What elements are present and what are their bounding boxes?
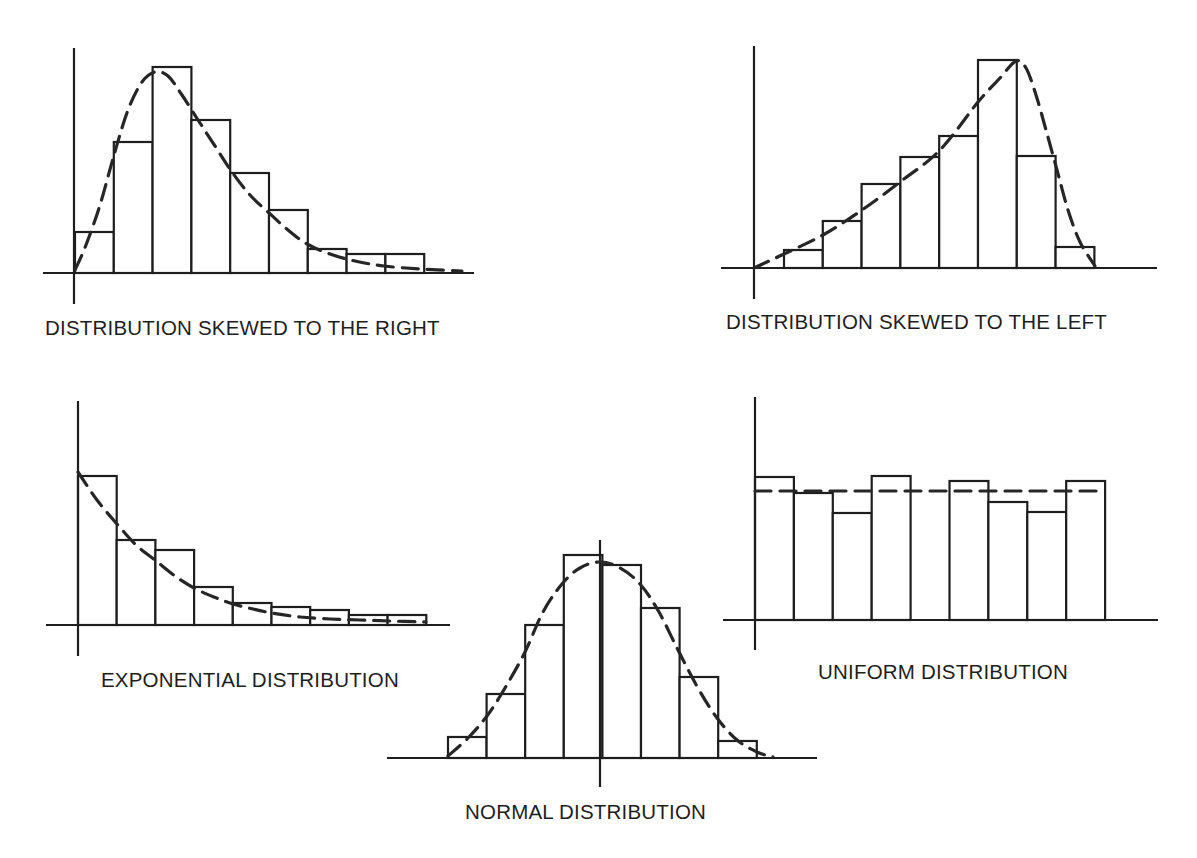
chart-exponential (46, 401, 450, 656)
histogram-bar (117, 540, 156, 625)
histogram-bar (755, 477, 794, 620)
histogram-bar (680, 677, 719, 758)
histogram-bar (833, 513, 872, 620)
chart-uniform (723, 397, 1158, 650)
histogram-bar (1066, 481, 1105, 620)
histogram-bar (862, 184, 901, 268)
histogram-bar (978, 60, 1017, 268)
histogram-bar (230, 173, 269, 273)
label-normal: NORMAL DISTRIBUTION (465, 802, 706, 823)
histogram-bar (602, 565, 641, 758)
histogram-bar (308, 249, 347, 273)
chart-skewed-right (43, 48, 474, 304)
chart-skewed-left (721, 46, 1157, 299)
histogram-bar (872, 476, 911, 620)
histogram-bar (155, 550, 194, 625)
histogram-bar (194, 587, 233, 625)
histogram-bar (114, 142, 153, 273)
label-exponential: EXPONENTIAL DISTRIBUTION (101, 670, 399, 691)
histogram-bar (988, 502, 1027, 620)
histogram-bar (794, 493, 833, 620)
histogram-bar (1017, 156, 1056, 268)
histogram-bar (75, 232, 114, 273)
histogram-bar (1027, 512, 1066, 620)
histogram-bar (525, 625, 564, 758)
label-skewed-left: DISTRIBUTION SKEWED TO THE LEFT (726, 312, 1107, 333)
distribution-figure (0, 0, 1197, 858)
label-uniform: UNIFORM DISTRIBUTION (818, 662, 1068, 683)
histogram-bar (564, 555, 603, 758)
histogram-bar (823, 221, 862, 268)
histogram-bar (641, 608, 680, 758)
histogram-bar (950, 481, 989, 620)
histogram-bar (900, 157, 939, 268)
histogram-bar (939, 136, 978, 268)
histogram-bar (191, 120, 230, 273)
histogram-bar (487, 694, 526, 758)
chart-normal (387, 540, 817, 787)
label-skewed-right: DISTRIBUTION SKEWED TO THE RIGHT (45, 318, 440, 339)
